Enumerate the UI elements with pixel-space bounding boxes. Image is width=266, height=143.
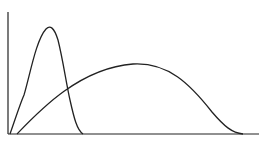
chart (0, 0, 266, 143)
narrow-peak-curve (10, 27, 83, 134)
chart-canvas (0, 0, 266, 143)
broad-hump-curve (17, 64, 243, 134)
